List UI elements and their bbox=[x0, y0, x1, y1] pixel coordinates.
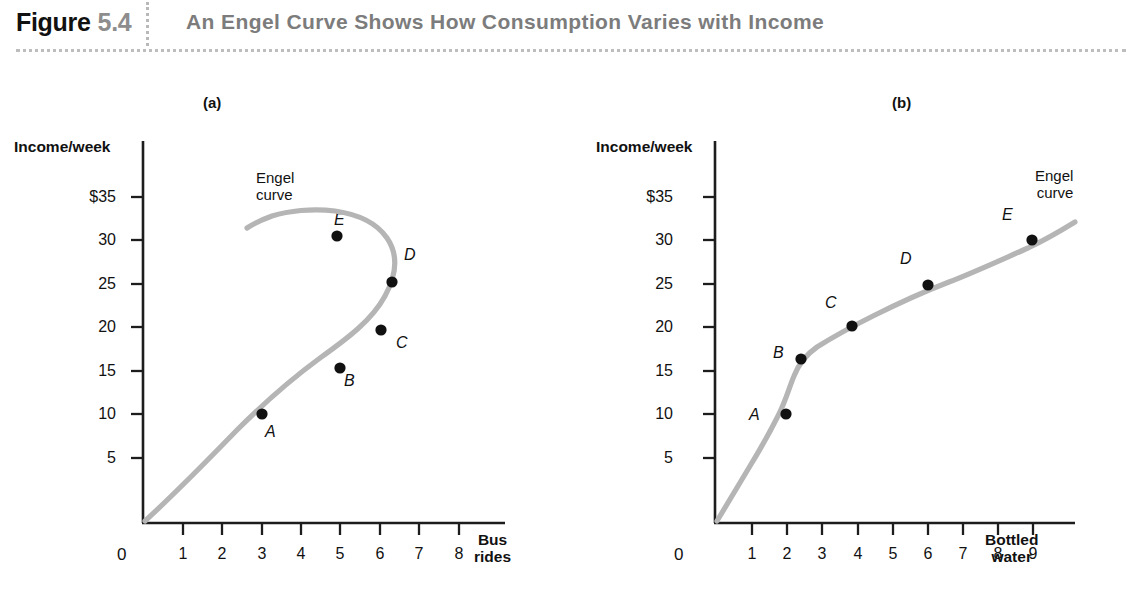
plot-area-b bbox=[585, 58, 1139, 601]
data-point-b-A bbox=[780, 408, 791, 419]
header-vertical-divider bbox=[146, 2, 149, 46]
figure-header: Figure5.4 An Engel Curve Shows How Consu… bbox=[0, 0, 1139, 58]
chart-panel-b: (b) Income/week Bottled water $35 30 25 … bbox=[585, 58, 1139, 601]
figure-word: Figure bbox=[16, 8, 91, 36]
header-horizontal-divider bbox=[16, 49, 1126, 52]
data-point-a-A bbox=[256, 408, 267, 419]
data-point-b-C bbox=[846, 320, 857, 331]
x-axis-ticks-b bbox=[752, 523, 1033, 535]
figure-title: An Engel Curve Shows How Consumption Var… bbox=[186, 10, 824, 34]
data-point-b-B bbox=[795, 353, 806, 364]
engel-curve-b bbox=[717, 222, 1075, 521]
chart-panel-a: (a) Income/week Bus rides $35 30 25 20 1… bbox=[0, 58, 600, 601]
plot-area-a bbox=[0, 58, 600, 601]
y-axis-ticks-b bbox=[703, 197, 715, 458]
data-point-b-D bbox=[922, 279, 933, 290]
y-axis-ticks-a bbox=[131, 197, 143, 458]
engel-curve-a bbox=[145, 210, 395, 521]
data-point-b-E bbox=[1026, 234, 1037, 245]
data-point-a-C bbox=[375, 324, 386, 335]
figure-number: 5.4 bbox=[98, 8, 132, 36]
data-point-a-B bbox=[334, 362, 345, 373]
figure-label: Figure5.4 bbox=[16, 8, 131, 37]
x-axis-ticks-a bbox=[183, 523, 459, 535]
data-point-a-E bbox=[331, 230, 342, 241]
data-point-a-D bbox=[386, 276, 397, 287]
